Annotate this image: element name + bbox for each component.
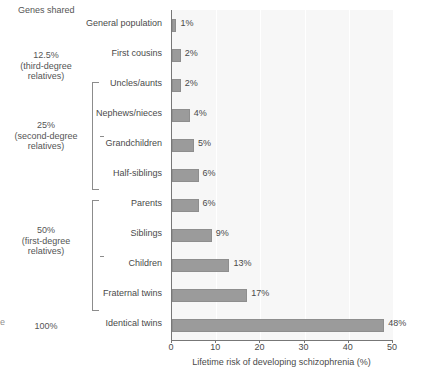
category-label: Half-siblings	[113, 168, 162, 178]
category-label: General population	[86, 18, 162, 28]
category-axis-labels: General populationFirst cousinsUncles/au…	[0, 10, 167, 340]
x-tick-label: 30	[299, 342, 309, 352]
category-label: Nephews/nieces	[96, 108, 162, 118]
category-label: Identical twins	[105, 318, 162, 328]
bar-value-label: 17%	[251, 288, 269, 298]
x-tick-label: 20	[254, 342, 264, 352]
bar-value-label: 2%	[185, 48, 198, 58]
category-label: Parents	[131, 198, 162, 208]
bar	[172, 49, 181, 62]
gridline	[349, 10, 350, 340]
gridline	[305, 10, 306, 340]
category-label: Grandchildren	[105, 138, 162, 148]
bar	[172, 289, 247, 302]
bar-value-label: 13%	[233, 258, 251, 268]
x-axis-label: Lifetime risk of developing schizophreni…	[171, 357, 392, 367]
plot-area: 1%2%2%4%5%6%6%9%13%17%48%	[171, 10, 393, 341]
category-label: Uncles/aunts	[110, 78, 162, 88]
x-tick-label: 50	[387, 342, 397, 352]
category-label: Children	[128, 258, 162, 268]
bar	[172, 229, 212, 242]
bar-value-label: 9%	[216, 228, 229, 238]
x-tick-label: 10	[210, 342, 220, 352]
x-tick-label: 0	[168, 342, 173, 352]
bar-value-label: 6%	[203, 198, 216, 208]
bar	[172, 199, 199, 212]
x-tick-label: 40	[343, 342, 353, 352]
bar-value-label: 6%	[203, 168, 216, 178]
category-label: First cousins	[111, 48, 162, 58]
bar-value-label: 48%	[388, 318, 406, 328]
bar	[172, 139, 194, 152]
bar	[172, 319, 384, 332]
bar	[172, 109, 190, 122]
bar	[172, 79, 181, 92]
gridline	[393, 10, 394, 340]
category-label: Fraternal twins	[103, 288, 162, 298]
category-label: Siblings	[130, 228, 162, 238]
bar-value-label: 5%	[198, 138, 211, 148]
bar-value-label: 4%	[194, 108, 207, 118]
bar	[172, 169, 199, 182]
bar-value-label: 1%	[180, 18, 193, 28]
bar-value-label: 2%	[185, 78, 198, 88]
bar	[172, 259, 229, 272]
bar	[172, 19, 176, 32]
schizophrenia-risk-chart: Genes shared e 12.5% (third-degree relat…	[0, 0, 430, 384]
